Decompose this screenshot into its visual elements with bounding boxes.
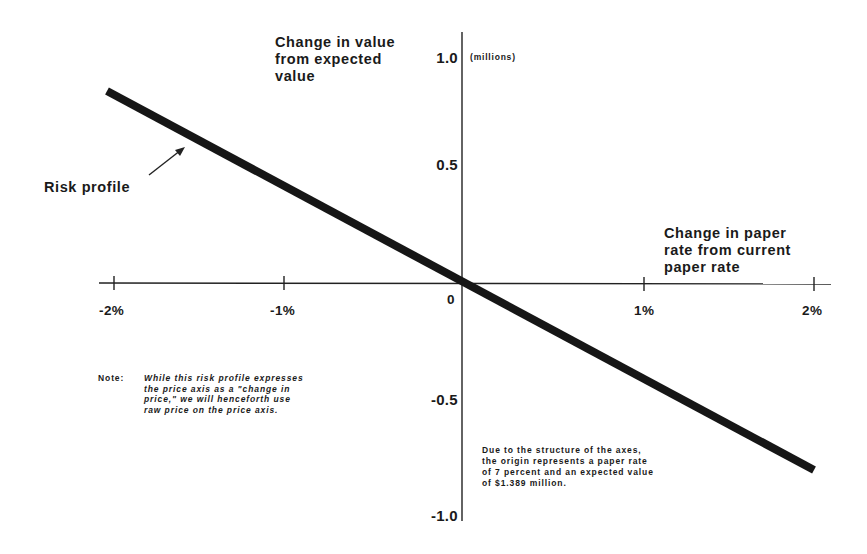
note-line: price," we will henceforth use (144, 394, 304, 405)
x-axis-title-line: rate from current (664, 242, 791, 259)
note-heading: Note: (98, 373, 124, 384)
risk-profile-label: Risk profile (44, 179, 130, 195)
x-tick-label-minus-1: -1% (270, 303, 295, 318)
x-axis-title: Change in paper rate from current paper … (664, 225, 791, 276)
arrowhead-icon (175, 147, 185, 156)
origin-explanation: Due to the structure of the axes, the or… (482, 445, 654, 489)
x-tick-label-plus-1: 1% (634, 303, 654, 318)
x-tick-label-minus-2: -2% (99, 303, 124, 318)
x-axis-title-line: Change in paper (664, 225, 791, 242)
x-axis-title-line: paper rate (664, 259, 791, 276)
origin-explanation-line: of $1.389 million. (482, 478, 654, 489)
note-line: While this risk profile expresses (144, 373, 304, 384)
y-tick-label-minus-1.0: -1.0 (418, 507, 458, 524)
y-axis-title-line: Change in value (275, 34, 395, 51)
y-tick-label-minus-0.5: -0.5 (418, 391, 458, 408)
x-tick-label-origin: 0 (447, 292, 455, 307)
chart-canvas (0, 0, 867, 554)
origin-explanation-line: Due to the structure of the axes, (482, 445, 654, 456)
x-tick-label-plus-2: 2% (802, 303, 822, 318)
y-axis-title: Change in value from expected value (275, 34, 395, 85)
risk-profile-arrow-shaft (149, 150, 181, 175)
y-axis-title-line: value (275, 68, 395, 85)
note-line: the price axis as a "change in (144, 384, 304, 395)
y-axis-units: (millions) (470, 52, 516, 62)
y-tick-label-0.5: 0.5 (418, 156, 458, 173)
note-line: raw price on the price axis. (144, 405, 304, 416)
y-tick-label-1.0: 1.0 (418, 49, 458, 66)
origin-explanation-line: of 7 percent and an expected value (482, 467, 654, 478)
note-text: While this risk profile expresses the pr… (144, 373, 304, 415)
y-axis-title-line: from expected (275, 51, 395, 68)
origin-explanation-line: the origin represents a paper rate (482, 456, 654, 467)
